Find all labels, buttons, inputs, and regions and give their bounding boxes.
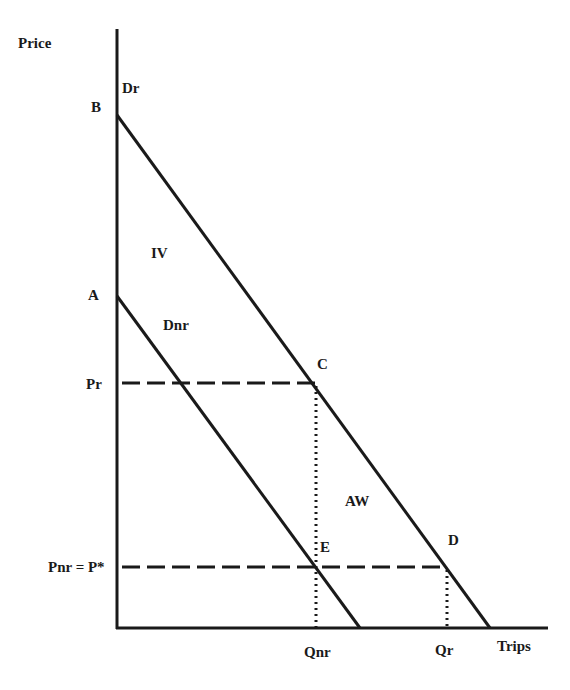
region-aw-label: AW [345, 493, 369, 509]
region-iv-label: IV [151, 245, 168, 261]
dr-curve-label: Dr [122, 80, 140, 96]
intercept-b-label: B [91, 99, 101, 115]
demand-diagram: Price Trips Dr B Dnr A Pr Pnr = P* Qnr Q… [0, 0, 570, 690]
intercept-a-label: A [88, 287, 99, 303]
point-c-label: C [317, 356, 328, 372]
demand-curve-dnr [117, 296, 360, 628]
quantity-qnr-label: Qnr [304, 644, 331, 660]
point-e-label: E [320, 539, 330, 555]
price-pnr-label: Pnr = P* [48, 559, 105, 575]
quantity-qr-label: Qr [435, 642, 454, 658]
price-pr-label: Pr [86, 376, 102, 392]
point-d-label: D [448, 532, 459, 548]
dnr-curve-label: Dnr [163, 317, 189, 333]
y-axis-label: Price [18, 35, 52, 51]
x-axis-label: Trips [497, 638, 531, 654]
